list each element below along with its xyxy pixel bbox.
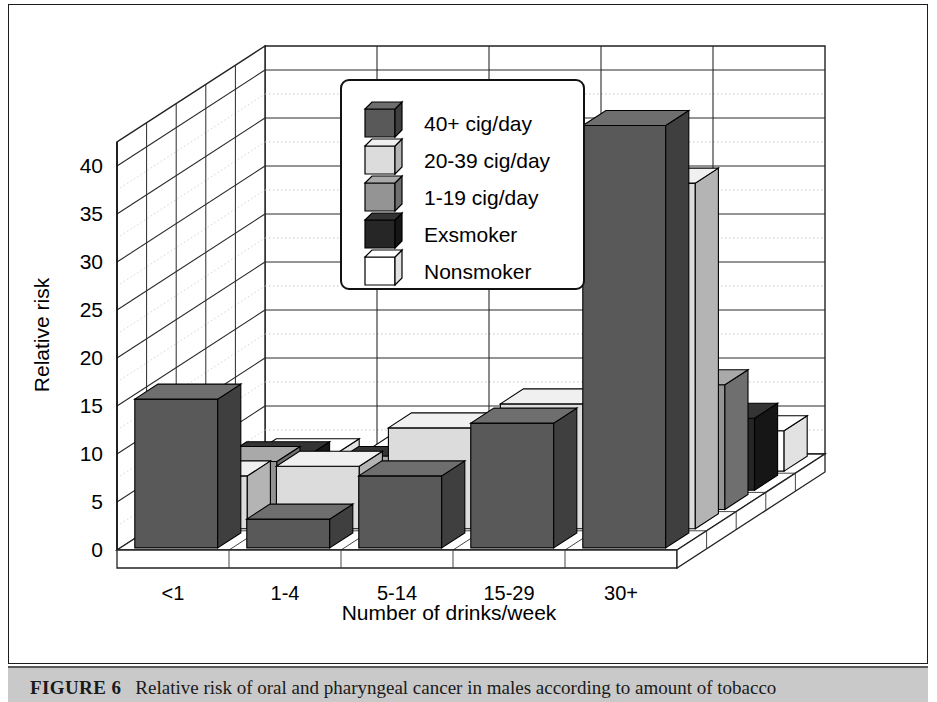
- chart-plot-frame: 0510152025303540 <11-45-1415-2930+ Relat…: [8, 4, 928, 664]
- figure-caption-band: FIGURE 6Relative risk of oral and pharyn…: [8, 666, 928, 702]
- figure-number: FIGURE 6: [30, 677, 121, 698]
- bar-2-1: [247, 504, 353, 548]
- x-tick-label: 1-4: [271, 582, 300, 604]
- x-tick-label: 30+: [604, 582, 638, 604]
- figure-caption-body: Relative risk of oral and pharyngeal can…: [135, 677, 776, 698]
- y-tick-label: 10: [80, 442, 103, 465]
- y-tick-label: 0: [91, 538, 103, 561]
- y-tick-label: 5: [91, 490, 103, 513]
- legend-label: Exsmoker: [424, 223, 517, 246]
- y-tick-label: 20: [80, 346, 103, 369]
- bar-3-1: [359, 461, 465, 548]
- y-axis-tick-labels: 0510152025303540: [80, 154, 103, 561]
- y-tick-label: 15: [80, 394, 103, 417]
- x-axis-title: Number of drinks/week: [342, 601, 557, 624]
- bar-4-1: [471, 408, 577, 548]
- figure-container: 0510152025303540 <11-45-1415-2930+ Relat…: [0, 0, 937, 702]
- bar-1-1: [135, 384, 241, 548]
- legend-label: 20-39 cig/day: [424, 149, 551, 172]
- y-tick-label: 30: [80, 250, 103, 273]
- legend-label: Nonsmoker: [424, 260, 531, 283]
- relative-risk-3d-bar-chart: 0510152025303540 <11-45-1415-2930+ Relat…: [9, 5, 926, 662]
- y-tick-label: 35: [80, 202, 103, 225]
- chart-legend: 40+ cig/day20-39 cig/day1-19 cig/dayExsm…: [341, 80, 584, 289]
- bar-5-1: [583, 111, 689, 548]
- y-tick-label: 25: [80, 298, 103, 321]
- x-tick-label: <1: [162, 582, 185, 604]
- y-tick-label: 40: [80, 154, 103, 177]
- legend-label: 1-19 cig/day: [424, 186, 539, 209]
- legend-label: 40+ cig/day: [424, 112, 532, 135]
- figure-caption: FIGURE 6Relative risk of oral and pharyn…: [30, 677, 776, 699]
- y-axis-title: Relative risk: [30, 277, 53, 392]
